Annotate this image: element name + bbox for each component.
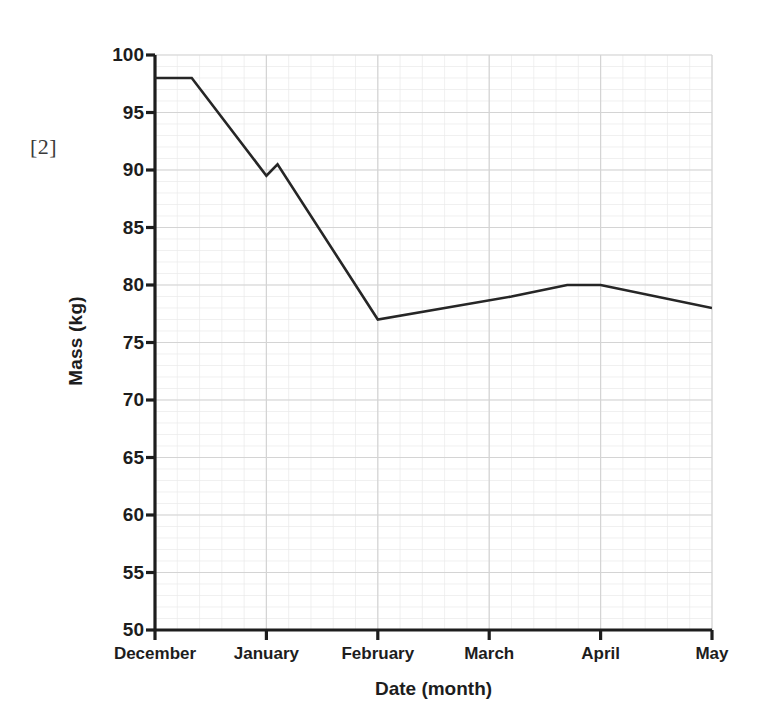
x-axis-title: Date (month) — [155, 678, 712, 700]
x-axis-tick-labels: DecemberJanuaryFebruaryMarchAprilMay — [0, 0, 758, 724]
y-axis-title: Mass (kg) — [65, 261, 87, 421]
chart-page: [2] 50556065707580859095100 DecemberJanu… — [0, 0, 758, 724]
x-tick-label-april: April — [581, 644, 620, 664]
x-tick-label-february: February — [341, 644, 414, 664]
x-tick-label-january: January — [234, 644, 299, 664]
line-chart-figure: 50556065707580859095100 DecemberJanuaryF… — [0, 0, 758, 724]
x-tick-label-march: March — [464, 644, 514, 664]
x-tick-label-may: May — [695, 644, 728, 664]
x-tick-label-december: December — [114, 644, 196, 664]
